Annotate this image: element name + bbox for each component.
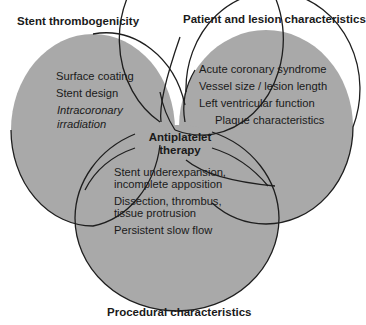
item-plaque: Plaque characteristics — [215, 114, 324, 127]
item-tissue-protrusion: tissue protrusion — [114, 207, 196, 220]
set-title-procedural: Procedural characteristics — [107, 306, 251, 318]
item-slow-flow: Persistent slow flow — [114, 224, 212, 237]
item-surface-coating: Surface coating — [56, 70, 134, 83]
center-label-line1: Antiplatelet — [140, 131, 220, 144]
item-irradiation: irradiation — [57, 118, 106, 131]
item-lv-function: Left ventricular function — [199, 97, 315, 110]
item-vessel-size: Vessel size / lesion length — [199, 80, 327, 93]
center-label-line2: therapy — [140, 144, 220, 157]
center-label: Antiplatelet therapy — [140, 131, 220, 157]
item-intracoronary: Intracoronary — [57, 104, 123, 117]
set-title-stent-thrombogenicity: Stent thrombogenicity — [17, 15, 139, 27]
item-apposition: incomplete apposition — [114, 178, 222, 191]
set-title-patient-lesion: Patient and lesion characteristics — [183, 13, 366, 25]
item-acute-coronary-syndrome: Acute coronary syndrome — [199, 63, 326, 76]
item-stent-design: Stent design — [56, 87, 118, 100]
